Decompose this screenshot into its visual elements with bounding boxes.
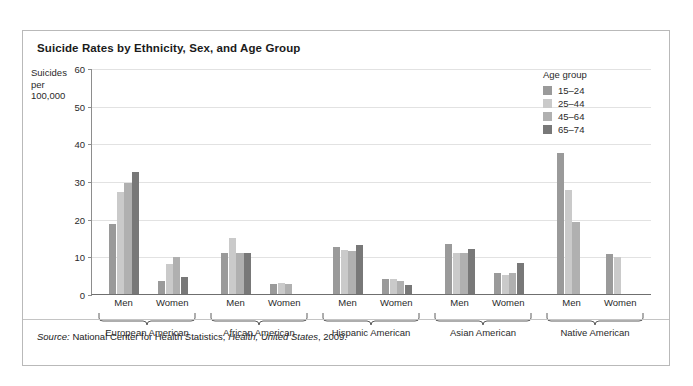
sex-label: Men: [562, 297, 580, 308]
legend-item[interactable]: 15–24: [543, 84, 587, 97]
bar: [572, 222, 579, 294]
legend: Age group 15–2425–4445–6465–74: [543, 69, 587, 136]
ethnicity-label: Native American: [560, 327, 629, 338]
bar: [132, 172, 139, 294]
bar: [509, 273, 516, 294]
bar: [341, 250, 348, 294]
bar: [468, 249, 475, 294]
y-tick-label: 0: [80, 290, 85, 301]
source-body: National Center for Health Statistics,: [72, 331, 225, 342]
bar: [397, 281, 404, 294]
chart-title: Suicide Rates by Ethnicity, Sex, and Age…: [37, 42, 300, 54]
bar: [229, 238, 236, 294]
bar: [270, 284, 277, 294]
bar: [333, 247, 340, 294]
source-label: Source:: [37, 331, 70, 342]
bar: [460, 253, 467, 294]
ethnicity-label: Asian American: [450, 327, 516, 338]
bar: [557, 153, 564, 294]
sex-label: Men: [450, 297, 468, 308]
bar: [517, 263, 524, 294]
legend-title: Age group: [543, 69, 587, 80]
bar: [181, 277, 188, 294]
bar: [244, 253, 251, 294]
bar: [445, 244, 452, 294]
sex-label: Men: [338, 297, 356, 308]
y-tick-label: 40: [74, 139, 85, 150]
legend-label: 15–24: [558, 85, 584, 96]
y-tick-label: 30: [74, 177, 85, 188]
sex-label: Men: [226, 297, 244, 308]
legend-label: 45–64: [558, 111, 584, 122]
bar: [494, 273, 501, 294]
bar: [502, 275, 509, 294]
legend-swatch-icon: [543, 86, 552, 95]
legend-swatch-icon: [543, 112, 552, 121]
bar: [109, 224, 116, 294]
sex-label: Women: [268, 297, 301, 308]
bar: [236, 253, 243, 294]
bar: [614, 257, 621, 294]
source-divider: [23, 319, 669, 320]
legend-swatch-icon: [543, 99, 552, 108]
bar: [173, 257, 180, 294]
bar: [124, 183, 131, 294]
bar: [285, 284, 292, 294]
bar: [606, 254, 613, 294]
source-publication: Health, United States: [228, 331, 318, 342]
legend-item[interactable]: 65–74: [543, 123, 587, 136]
bar: [405, 285, 412, 294]
sex-label: Women: [380, 297, 413, 308]
y-axis-title-text: Suicidesper100,000: [31, 67, 67, 101]
legend-item[interactable]: 45–64: [543, 110, 587, 123]
bar: [565, 190, 572, 294]
legend-rows: 15–2425–4445–6465–74: [543, 84, 587, 136]
sex-label: Women: [604, 297, 637, 308]
bar: [117, 192, 124, 294]
sex-label: Men: [114, 297, 132, 308]
bar: [221, 253, 228, 294]
y-tick-label: 60: [74, 64, 85, 75]
sex-axis-labels: MenWomenMenWomenMenWomenMenWomenMenWomen: [91, 297, 651, 311]
bar: [453, 253, 460, 294]
chart-figure: Suicide Rates by Ethnicity, Sex, and Age…: [22, 30, 670, 366]
sex-label: Women: [492, 297, 525, 308]
bar: [348, 251, 355, 294]
y-tick-label: 20: [74, 214, 85, 225]
y-tick-label: 10: [74, 252, 85, 263]
legend-label: 65–74: [558, 124, 584, 135]
legend-item[interactable]: 25–44: [543, 97, 587, 110]
y-tick-mark: [88, 295, 92, 296]
sex-label: Women: [156, 297, 189, 308]
bar: [166, 264, 173, 294]
bar: [390, 279, 397, 294]
bar: [356, 245, 363, 294]
legend-label: 25–44: [558, 98, 584, 109]
legend-swatch-icon: [543, 125, 552, 134]
y-tick-label: 50: [74, 101, 85, 112]
source-note: Source: National Center for Health Stati…: [37, 331, 347, 342]
source-year: , 2009.: [318, 331, 347, 342]
bar: [158, 281, 165, 294]
bar: [382, 279, 389, 294]
bar: [278, 283, 285, 294]
